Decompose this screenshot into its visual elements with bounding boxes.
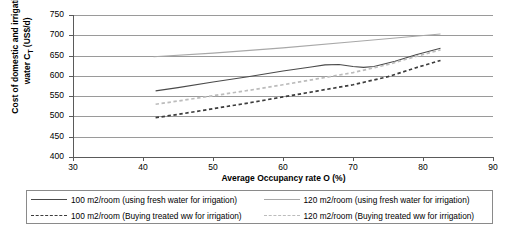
legend-label-0: 100 m2/room (using fresh water for irrig… [71, 195, 237, 205]
chart-plot-area-container: Cost of domestic and irrigation water CT… [0, 0, 519, 182]
legend-swatch-dashed-dark-icon [31, 212, 67, 220]
legend-label-1: 120 m2/room (using fresh water for irrig… [304, 195, 470, 205]
data-series-group [0, 0, 519, 182]
legend-swatch-solid-dark-icon [31, 196, 67, 204]
legend-label-2: 100 m2/room (Buying treated ww for irrig… [71, 211, 242, 221]
x-axis-title: Average Occupancy rate O (%) [73, 173, 494, 183]
legend-item-2: 100 m2/room (Buying treated ww for irrig… [27, 208, 260, 223]
legend-row-2: 100 m2/room (Buying treated ww for irrig… [27, 208, 492, 223]
legend-label-3: 120 m2/room (Buying treated ww for irrig… [304, 211, 475, 221]
legend-row-1: 100 m2/room (using fresh water for irrig… [27, 192, 492, 207]
legend-swatch-dashed-light-icon [264, 212, 300, 220]
chart-figure: Cost of domestic and irrigation water CT… [0, 0, 519, 237]
series-line-0 [156, 48, 441, 91]
legend-swatch-solid-light-icon [264, 196, 300, 204]
series-line-3 [156, 50, 441, 104]
legend-item-3: 120 m2/room (Buying treated ww for irrig… [260, 208, 493, 223]
series-line-1 [154, 34, 441, 57]
legend-item-0: 100 m2/room (using fresh water for irrig… [27, 192, 260, 207]
legend-item-1: 120 m2/room (using fresh water for irrig… [260, 192, 493, 207]
chart-legend: 100 m2/room (using fresh water for irrig… [26, 190, 493, 224]
